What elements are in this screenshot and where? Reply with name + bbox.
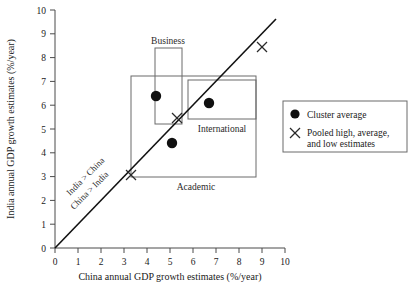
legend-label-cluster-average: Cluster average	[307, 110, 366, 120]
y-axis-title: India annual GDP growth estimates (%/yea…	[5, 39, 17, 219]
legend-dot-icon	[290, 109, 299, 118]
x-axis-title: China annual GDP growth estimates (%/yea…	[78, 271, 261, 283]
y-tick-label-8: 8	[41, 53, 46, 63]
legend-label-pooled-line1: Pooled high, average,	[307, 128, 389, 138]
dot-business-cluster-average	[151, 91, 161, 101]
y-tick-label-7: 7	[41, 77, 46, 87]
cluster-label-academic: Academic	[177, 182, 216, 192]
y-tick-label-2: 2	[41, 196, 46, 206]
x-tick-label-0: 0	[53, 257, 58, 267]
y-tick-label-9: 9	[41, 29, 46, 39]
y-tick-label-6: 6	[41, 101, 46, 111]
x-tick-label-2: 2	[99, 257, 104, 267]
x-tick-label-8: 8	[237, 257, 242, 267]
x-tick-label-5: 5	[168, 257, 173, 267]
chart-figure: 0 1 2 3 4 5 6 7 8 9 10 0	[0, 0, 412, 286]
x-tick-label-9: 9	[260, 257, 265, 267]
x-tick-label-4: 4	[145, 257, 150, 267]
dot-academic-cluster-average	[167, 138, 177, 148]
cluster-label-business: Business	[151, 36, 185, 46]
x-tick-label-7: 7	[214, 257, 219, 267]
scatter-plot-svg: 0 1 2 3 4 5 6 7 8 9 10 0	[0, 0, 412, 286]
cluster-label-international: International	[198, 124, 247, 134]
x-tick-label-10: 10	[280, 257, 290, 267]
y-tick-label-1: 1	[41, 220, 46, 230]
chart-legend: Cluster average Pooled high, average, an…	[283, 101, 407, 152]
x-tick-label-6: 6	[191, 257, 196, 267]
y-tick-label-10: 10	[37, 6, 47, 16]
dot-international-cluster-average	[204, 98, 214, 108]
y-tick-label-0: 0	[41, 244, 46, 254]
x-tick-label-1: 1	[76, 257, 81, 267]
y-tick-label-3: 3	[41, 172, 46, 182]
legend-label-pooled-line2: and low estimates	[307, 139, 375, 149]
x-tick-label-3: 3	[122, 257, 127, 267]
y-tick-label-5: 5	[41, 125, 46, 135]
y-tick-label-4: 4	[41, 148, 46, 158]
